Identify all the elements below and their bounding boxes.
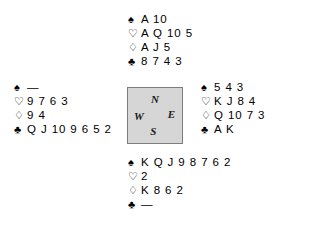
heart-icon: ♡ <box>201 94 214 108</box>
north-spades-row: ♠ A 10 <box>128 12 193 26</box>
south-diamonds-cards: K 8 6 2 <box>141 183 184 197</box>
compass-west-label: W <box>134 110 144 121</box>
south-clubs-cards: — <box>141 197 153 211</box>
west-clubs-row: ♣ Q J 10 9 6 5 2 <box>14 122 112 136</box>
west-clubs-cards: Q J 10 9 6 5 2 <box>27 122 112 136</box>
north-spades-cards: A 10 <box>141 12 168 26</box>
west-spades-cards: — <box>27 80 39 94</box>
hand-south: ♠ K Q J 9 8 7 6 2 ♡ 2 ♢ K 8 6 2 ♣ — <box>128 155 231 211</box>
east-spades-cards: 5 4 3 <box>214 80 244 94</box>
hand-east: ♠ 5 4 3 ♡ K J 8 4 ♢ Q 10 7 3 ♣ A K <box>201 80 265 136</box>
heart-icon: ♡ <box>128 169 141 183</box>
west-hearts-cards: 9 7 6 3 <box>27 94 68 108</box>
diamond-icon: ♢ <box>201 108 214 122</box>
south-diamonds-row: ♢ K 8 6 2 <box>128 183 231 197</box>
diamond-icon: ♢ <box>128 40 141 54</box>
east-diamonds-cards: Q 10 7 3 <box>214 108 265 122</box>
diamond-icon: ♢ <box>14 108 27 122</box>
south-hearts-cards: 2 <box>141 169 148 183</box>
heart-icon: ♡ <box>14 94 27 108</box>
south-spades-cards: K Q J 9 8 7 6 2 <box>141 155 231 169</box>
club-icon: ♣ <box>128 197 141 211</box>
west-diamonds-cards: 9 4 <box>27 108 46 122</box>
north-hearts-row: ♡ A Q 10 5 <box>128 26 193 40</box>
north-diamonds-row: ♢ A J 5 <box>128 40 193 54</box>
hand-west: ♠ — ♡ 9 7 6 3 ♢ 9 4 ♣ Q J 10 9 6 5 2 <box>14 80 112 136</box>
spade-icon: ♠ <box>128 12 141 26</box>
compass-north-label: N <box>151 94 159 105</box>
south-spades-row: ♠ K Q J 9 8 7 6 2 <box>128 155 231 169</box>
spade-icon: ♠ <box>201 80 214 94</box>
compass-south-label: S <box>150 126 156 137</box>
east-hearts-cards: K J 8 4 <box>214 94 256 108</box>
diamond-icon: ♢ <box>128 183 141 197</box>
spade-icon: ♠ <box>128 155 141 169</box>
east-clubs-row: ♣ A K <box>201 122 265 136</box>
south-clubs-row: ♣ — <box>128 197 231 211</box>
east-diamonds-row: ♢ Q 10 7 3 <box>201 108 265 122</box>
club-icon: ♣ <box>128 54 141 68</box>
club-icon: ♣ <box>201 122 214 136</box>
west-spades-row: ♠ — <box>14 80 112 94</box>
east-spades-row: ♠ 5 4 3 <box>201 80 265 94</box>
east-clubs-cards: A K <box>214 122 235 136</box>
spade-icon: ♠ <box>14 80 27 94</box>
compass-box: N W E S <box>127 87 183 144</box>
north-diamonds-cards: A J 5 <box>141 40 171 54</box>
north-hearts-cards: A Q 10 5 <box>141 26 193 40</box>
north-clubs-row: ♣ 8 7 4 3 <box>128 54 193 68</box>
heart-icon: ♡ <box>128 26 141 40</box>
compass-east-label: E <box>168 108 175 119</box>
west-hearts-row: ♡ 9 7 6 3 <box>14 94 112 108</box>
south-hearts-row: ♡ 2 <box>128 169 231 183</box>
north-clubs-cards: 8 7 4 3 <box>141 54 182 68</box>
east-hearts-row: ♡ K J 8 4 <box>201 94 265 108</box>
west-diamonds-row: ♢ 9 4 <box>14 108 112 122</box>
bridge-hand-diagram: ♠ A 10 ♡ A Q 10 5 ♢ A J 5 ♣ 8 7 4 3 ♠ — … <box>0 0 309 230</box>
hand-north: ♠ A 10 ♡ A Q 10 5 ♢ A J 5 ♣ 8 7 4 3 <box>128 12 193 68</box>
club-icon: ♣ <box>14 122 27 136</box>
